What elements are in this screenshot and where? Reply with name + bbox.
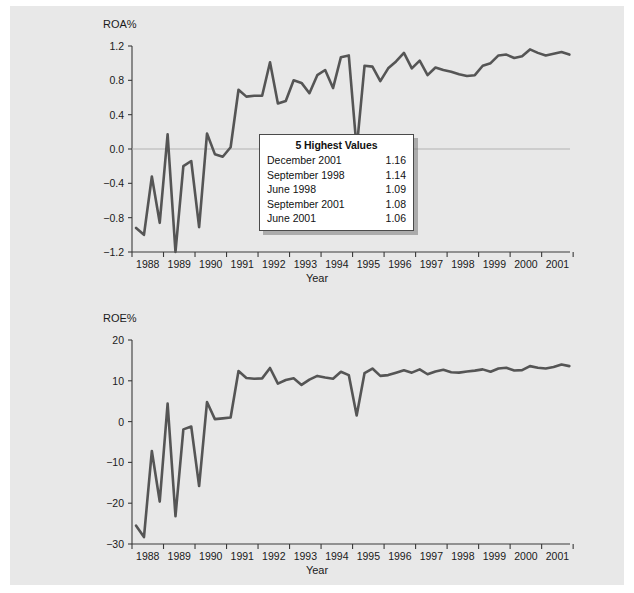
x-tick-label: 1998 <box>451 258 475 270</box>
x-tick-label: 1994 <box>325 550 349 562</box>
roa-legend-rows: December 20011.16September 19981.14June … <box>267 153 406 226</box>
roa-legend-title: 5 Highest Values <box>267 138 406 153</box>
x-tick-label: 1990 <box>199 258 223 270</box>
y-tick-label: 20 <box>112 334 124 346</box>
y-tick-label: 1.2 <box>109 40 124 52</box>
y-tick-label: 0 <box>118 416 124 428</box>
x-tick-label: 1991 <box>231 258 255 270</box>
x-tick-label: 1993 <box>294 550 318 562</box>
legend-row: June 19981.09 <box>267 182 406 197</box>
y-tick-label: −0.8 <box>103 212 124 224</box>
y-tick-label: 10 <box>112 375 124 387</box>
roe-axis-title: ROE% <box>103 312 137 324</box>
x-tick-label: 2000 <box>514 550 538 562</box>
legend-row-value: 1.08 <box>386 197 406 212</box>
x-tick-label: 1996 <box>388 550 412 562</box>
roa-x-axis-label: Year <box>306 272 329 284</box>
roe-x-tick-labels: 1988198919901991199219931994199519961997… <box>136 550 569 562</box>
y-tick-label: −0.4 <box>103 177 124 189</box>
x-tick-label: 1990 <box>199 550 223 562</box>
x-tick-label: 1992 <box>262 550 286 562</box>
roa-x-tick-labels: 1988198919901991199219931994199519961997… <box>136 258 569 270</box>
chart-panel-roa: ROA% 1.20.80.40.0−0.4−0.8−1.2 1988198919… <box>10 6 624 294</box>
legend-row-label: September 1998 <box>267 168 361 183</box>
x-tick-label: 1993 <box>294 258 318 270</box>
x-tick-label: 1997 <box>420 550 444 562</box>
x-tick-label: 2001 <box>546 550 570 562</box>
x-tick-label: 1999 <box>483 258 507 270</box>
legend-row-value: 1.09 <box>386 182 406 197</box>
y-tick-label: −10 <box>106 456 124 468</box>
x-tick-label: 1989 <box>168 550 192 562</box>
x-tick-label: 1988 <box>136 258 160 270</box>
y-tick-label: −20 <box>106 497 124 509</box>
legend-row: December 20011.16 <box>267 153 406 168</box>
y-tick-label: −1.2 <box>103 246 124 258</box>
legend-row: June 20011.06 <box>267 211 406 226</box>
roa-y-tick-labels: 1.20.80.40.0−0.4−0.8−1.2 <box>103 40 124 258</box>
legend-row-label: June 2001 <box>267 211 332 226</box>
legend-row-value: 1.16 <box>386 153 406 168</box>
x-tick-label: 1998 <box>451 550 475 562</box>
x-tick-label: 2000 <box>514 258 538 270</box>
x-tick-label: 1989 <box>168 258 192 270</box>
roa-axis-title: ROA% <box>103 18 137 30</box>
x-tick-label: 1996 <box>388 258 412 270</box>
roe-x-axis-label: Year <box>306 564 329 576</box>
y-tick-label: 0.0 <box>109 143 124 155</box>
x-tick-label: 1997 <box>420 258 444 270</box>
x-tick-label: 1995 <box>357 258 381 270</box>
y-tick-label: −30 <box>106 538 124 550</box>
legend-row: September 19981.14 <box>267 168 406 183</box>
x-tick-label: 1995 <box>357 550 381 562</box>
roe-chart-svg: ROE% 20100−10−20−30 19881989199019911992… <box>10 294 624 585</box>
x-tick-label: 1988 <box>136 550 160 562</box>
roe-y-tick-labels: 20100−10−20−30 <box>106 334 124 550</box>
legend-row-label: December 2001 <box>267 153 358 168</box>
y-tick-label: 0.4 <box>109 109 124 121</box>
figure-root: ROA% 1.20.80.40.0−0.4−0.8−1.2 1988198919… <box>0 0 634 593</box>
legend-row-value: 1.14 <box>386 168 406 183</box>
legend-row: September 20011.08 <box>267 197 406 212</box>
legend-row-label: September 2001 <box>267 197 361 212</box>
x-tick-label: 1992 <box>262 258 286 270</box>
x-tick-label: 1994 <box>325 258 349 270</box>
roa-legend-box: 5 Highest Values December 20011.16Septem… <box>259 134 414 231</box>
legend-row-value: 1.06 <box>386 211 406 226</box>
x-tick-label: 1999 <box>483 550 507 562</box>
x-tick-label: 1991 <box>231 550 255 562</box>
x-tick-label: 2001 <box>546 258 570 270</box>
chart-panel-roe: ROE% 20100−10−20−30 19881989199019911992… <box>10 294 624 585</box>
y-tick-label: 0.8 <box>109 74 124 86</box>
legend-row-label: June 1998 <box>267 182 332 197</box>
roe-data-line <box>136 364 569 537</box>
